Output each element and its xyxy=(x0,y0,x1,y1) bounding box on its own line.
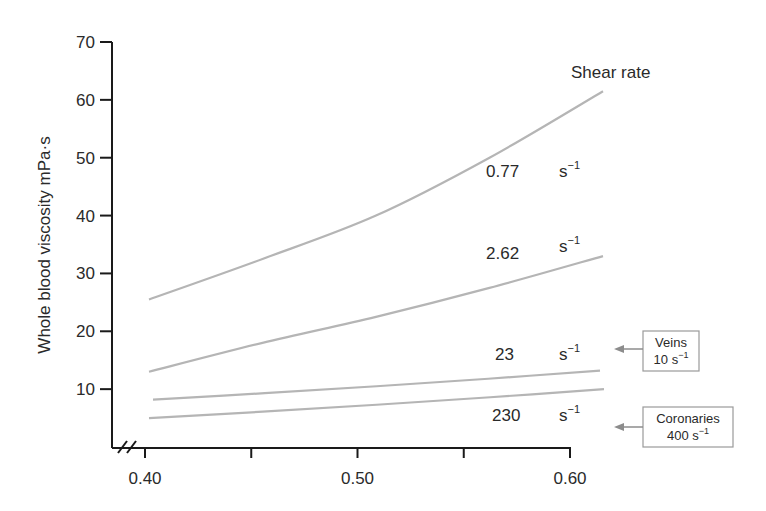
annotation-title: Veins xyxy=(655,335,687,350)
series-rate: 230 xyxy=(492,406,520,425)
annotation-title: Coronaries xyxy=(656,411,720,426)
legend-title: Shear rate xyxy=(571,63,650,82)
series-label: 0.77s−1 xyxy=(486,159,580,181)
x-ticks: 0.400.500.60 xyxy=(128,448,586,488)
series-unit: s−1 xyxy=(559,234,580,256)
x-tick-label: 0.60 xyxy=(553,469,586,488)
viscosity-chart: 10203040506070 0.400.500.60 Whole blood … xyxy=(0,0,766,511)
x-tick-label: 0.40 xyxy=(128,469,161,488)
series-label: 2.62s−1 xyxy=(486,234,580,263)
series-unit: s−1 xyxy=(559,403,580,425)
y-axis: 10203040506070 xyxy=(76,33,112,448)
y-tick-label: 20 xyxy=(76,322,95,341)
y-tick-label: 10 xyxy=(76,380,95,399)
series-unit: s−1 xyxy=(559,159,580,181)
series-rate: 0.77 xyxy=(486,162,519,181)
y-axis-title: Whole blood viscosity mPa·s xyxy=(35,136,54,353)
series-lines xyxy=(149,91,604,418)
y-tick-label: 40 xyxy=(76,207,95,226)
series-line xyxy=(149,256,603,372)
series-unit: s−1 xyxy=(559,342,580,364)
series-rate: 23 xyxy=(495,345,514,364)
arrow-left-icon xyxy=(614,423,643,431)
y-tick-label: 30 xyxy=(76,264,95,283)
y-tick-label: 60 xyxy=(76,91,95,110)
series-label: 230s−1 xyxy=(492,403,580,425)
series-labels: 0.77s−12.62s−123s−1230s−1 xyxy=(486,159,580,425)
annotation-coronaries: Coronaries400 s−1 xyxy=(614,407,733,447)
series-label: 23s−1 xyxy=(495,342,580,364)
x-tick-label: 0.50 xyxy=(341,469,374,488)
y-tick-label: 70 xyxy=(76,33,95,52)
series-line xyxy=(149,389,604,418)
y-tick-label: 50 xyxy=(76,149,95,168)
series-rate: 2.62 xyxy=(486,244,519,263)
arrow-left-icon xyxy=(614,345,643,353)
annotation-veins: Veins10 s−1 xyxy=(614,331,699,371)
series-line xyxy=(149,91,603,299)
x-axis: 0.400.500.60 xyxy=(112,441,587,488)
y-ticks: 10203040506070 xyxy=(76,33,112,399)
annotations: Veins10 s−1Coronaries400 s−1 xyxy=(614,331,733,447)
